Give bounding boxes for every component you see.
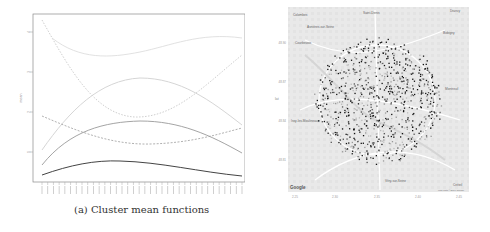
series-cluster-6 <box>42 161 242 176</box>
map-background <box>288 7 469 192</box>
y-axis-labels: 4 3 2 1 mean <box>19 31 31 153</box>
y-tick-label: 2 <box>27 111 31 113</box>
y-tick-label: 4 <box>27 31 31 33</box>
x-tick-label: 2.25 <box>292 195 298 199</box>
place-label: Issy-les-Moulineaux <box>291 119 320 123</box>
panel-cluster-mean-functions: 4 3 2 1 mean (a) Cluster mean functions <box>0 0 245 232</box>
y-tick-label: 48.90 <box>278 41 286 45</box>
caption-a: (a) Cluster mean functions <box>74 204 209 215</box>
panel-map-clustered-stations: Colombes Asnières-sur-Seine Saint-Denis … <box>245 0 490 232</box>
place-label: Drancy <box>450 9 461 13</box>
y-axis-ticks <box>30 32 33 152</box>
place-label: Vitry-sur-Seine <box>385 179 406 183</box>
y-axis-label: mean <box>19 94 23 103</box>
series-cluster-4 <box>42 116 242 144</box>
place-label: Créteil <box>453 183 463 187</box>
map-y-axis: 48.90 48.87 48.84 48.81 <box>278 41 286 162</box>
place-label: Courbevoie <box>295 41 312 45</box>
place-label: Bobigny <box>443 31 455 35</box>
place-label: Montreuil <box>445 87 458 91</box>
map-y-label: lat <box>275 97 279 101</box>
x-axis-ticks <box>42 182 243 194</box>
plot-frame <box>33 14 245 182</box>
y-tick-label: 3 <box>27 71 31 73</box>
series-cluster-3 <box>42 78 242 150</box>
line-chart: 4 3 2 1 mean <box>0 0 245 200</box>
place-label: Asnières-sur-Seine <box>307 25 334 29</box>
place-label: Colombes <box>293 13 308 17</box>
map-x-axis: 2.25 2.30 2.35 2.40 2.45 <box>292 195 462 199</box>
map-attribution: Map data ©2016 Google <box>438 189 465 192</box>
series-cluster-1 <box>42 20 242 117</box>
y-tick-label: 48.81 <box>278 158 286 162</box>
series-cluster-2 <box>52 37 242 56</box>
y-tick-label: 48.84 <box>278 119 286 123</box>
x-tick-label: 2.45 <box>456 195 462 199</box>
station-map: Colombes Asnières-sur-Seine Saint-Denis … <box>245 0 490 200</box>
x-tick-label: 2.40 <box>415 195 421 199</box>
x-tick-label: 2.30 <box>332 195 338 199</box>
place-label: Saint-Denis <box>363 11 380 15</box>
series-cluster-5 <box>42 121 242 165</box>
y-tick-label: 1 <box>27 151 31 153</box>
google-logo: Google <box>290 185 306 190</box>
y-tick-label: 48.87 <box>278 80 286 84</box>
x-tick-label: 2.35 <box>374 195 380 199</box>
